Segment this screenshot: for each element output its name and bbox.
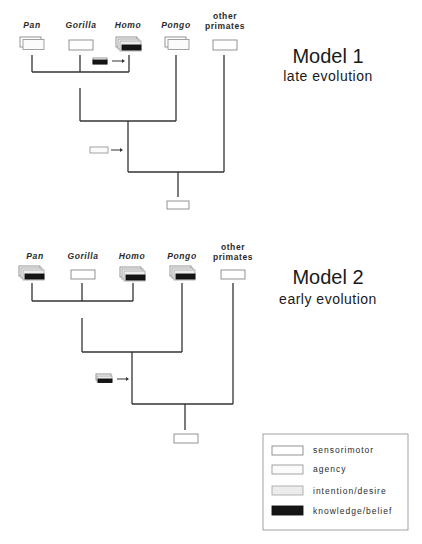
capacity-stack-homo: [120, 267, 145, 281]
taxon-label-homo: Homo: [115, 20, 141, 30]
legend: sensorimotor agency intention/desire kno…: [263, 434, 408, 530]
taxon-label-gorilla: Gorilla: [65, 20, 96, 30]
legend-swatch-agency: [272, 465, 303, 474]
legend-label-intention: intention/desire: [313, 486, 387, 496]
legend-label-sensorimotor: sensorimotor: [313, 445, 374, 455]
tree-lines-model-2: [32, 283, 233, 430]
capacity-stack-gorilla: [69, 40, 93, 50]
taxon-label-other-line2: primates: [205, 21, 245, 31]
legend-swatch-intention: [272, 486, 303, 495]
capacity-stack-pongo: [165, 37, 189, 50]
legend-label-knowledge: knowledge/belief: [313, 506, 392, 516]
legend-label-agency: agency: [313, 464, 346, 474]
taxon-label-pongo: Pongo: [161, 20, 190, 30]
legend-swatch-sensorimotor: [272, 446, 303, 455]
capacity-stack-pan: [19, 266, 44, 280]
arrow-icon: [122, 59, 125, 63]
capacity-stack-pan: [20, 37, 44, 50]
arrow-icon: [126, 377, 129, 381]
capacity-stack-gorilla: [71, 270, 95, 279]
taxon-label-pan: Pan: [23, 20, 40, 30]
model-2-subtitle: early evolution: [279, 291, 377, 307]
taxon-label-pan: Pan: [26, 251, 43, 261]
legend-swatch-knowledge: [272, 506, 303, 515]
taxon-label-other-line1: other: [213, 11, 237, 21]
capacity-stack-other-primates: [213, 40, 237, 50]
gain-marker-knowledge-homo: [93, 58, 125, 64]
model-2: Pan Gorilla Homo Pongo other primates: [19, 242, 377, 443]
arrow-icon: [120, 148, 123, 152]
root-box-sensorimotor: [174, 434, 198, 443]
gain-marker-agency: [90, 147, 123, 153]
phylogeny-diagram: Pan Gorilla Homo Pongo other primates: [0, 0, 422, 544]
root-box-sensorimotor: [167, 201, 189, 209]
taxon-label-other-line1: other: [221, 242, 245, 252]
taxon-label-gorilla: Gorilla: [67, 251, 98, 261]
model-1-title: Model 1: [292, 45, 363, 67]
capacity-stack-pongo: [170, 266, 195, 280]
tree-lines-model-1: [32, 55, 224, 197]
gain-marker-all-capacities: [96, 374, 129, 383]
taxon-label-other-line2: primates: [213, 252, 253, 262]
capacity-stack-other-primates: [221, 270, 245, 279]
taxon-label-homo: Homo: [119, 251, 145, 261]
model-2-title: Model 2: [292, 266, 363, 288]
taxon-label-pongo: Pongo: [167, 251, 196, 261]
model-1: Pan Gorilla Homo Pongo other primates: [20, 11, 373, 209]
model-1-subtitle: late evolution: [283, 68, 373, 84]
capacity-stack-homo: [116, 37, 141, 51]
